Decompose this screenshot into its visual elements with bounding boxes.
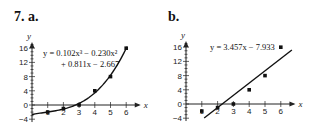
y-tick-label: 4 <box>178 86 183 95</box>
x-tick-label: 5 <box>263 107 268 116</box>
data-point <box>77 103 81 107</box>
x-tick-label: 6 <box>279 107 284 116</box>
x-axis-title: x <box>297 99 302 109</box>
y-tick-label: 16 <box>19 44 28 53</box>
y-tick-label: 12 <box>19 58 28 67</box>
y-tick-label: 12 <box>173 57 182 66</box>
y-tick-label: 4 <box>24 87 29 96</box>
chart-panel-a: 7. a. −40481216123456yxy = 0.102x³ − 0.2… <box>0 0 160 135</box>
data-point <box>109 75 113 79</box>
x-axis-arrow-icon <box>135 103 141 108</box>
y-tick-label: −4 <box>19 115 29 124</box>
chart-a: −40481216123456yxy = 0.102x³ − 0.230x²+ … <box>0 0 160 135</box>
data-point <box>93 89 97 93</box>
chart-b: −40481216123456yxy = 3.457x − 7.933 <box>160 0 317 135</box>
y-tick-label: 8 <box>24 73 29 82</box>
equation-a-line1: y = 0.102x³ − 0.230x² <box>43 48 118 58</box>
x-tick-label: 6 <box>124 108 129 117</box>
data-point <box>62 107 66 111</box>
x-axis-arrow-icon <box>289 102 295 107</box>
x-tick-label: 4 <box>93 108 98 117</box>
y-tick-label: −4 <box>173 114 183 123</box>
data-point <box>232 102 236 106</box>
x-tick-label: 3 <box>77 108 82 117</box>
data-point <box>247 88 251 92</box>
equation-a-line2: + 0.811x − 2.667 <box>61 59 119 69</box>
data-point <box>200 109 204 113</box>
y-tick-label: 0 <box>178 100 183 109</box>
data-point <box>46 110 50 114</box>
data-point <box>263 74 267 78</box>
data-point <box>216 106 220 110</box>
y-axis-title: y <box>180 30 185 40</box>
x-tick-label: 3 <box>231 107 236 116</box>
data-point <box>279 45 283 49</box>
x-tick-label: 5 <box>108 108 113 117</box>
y-tick-label: 16 <box>173 43 182 52</box>
chart-panel-b: b. −40481216123456yxy = 3.457x − 7.933 <box>160 0 317 135</box>
equation-b: y = 3.457x − 7.933 <box>210 42 275 52</box>
y-tick-label: 0 <box>24 101 29 110</box>
x-tick-label: 4 <box>247 107 252 116</box>
x-axis-title: x <box>143 100 148 110</box>
y-axis-title: y <box>26 31 31 41</box>
y-tick-label: 8 <box>178 72 183 81</box>
data-point <box>124 46 128 50</box>
